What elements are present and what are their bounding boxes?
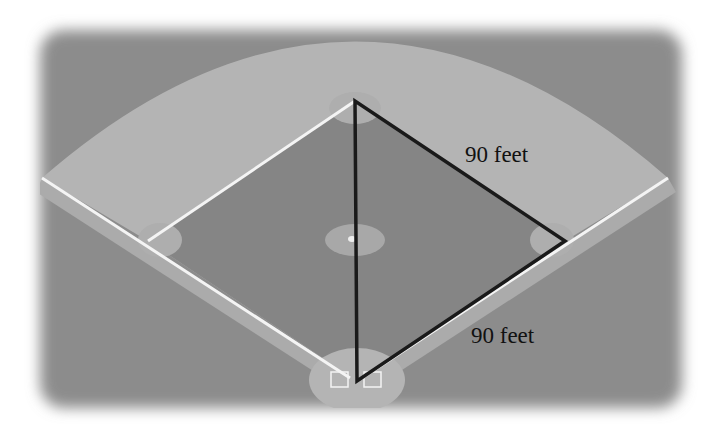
baseball-diamond-diagram: 90 feet 90 feet xyxy=(0,0,720,441)
label-first-to-home: 90 feet xyxy=(471,323,535,348)
label-second-to-first: 90 feet xyxy=(465,142,529,167)
